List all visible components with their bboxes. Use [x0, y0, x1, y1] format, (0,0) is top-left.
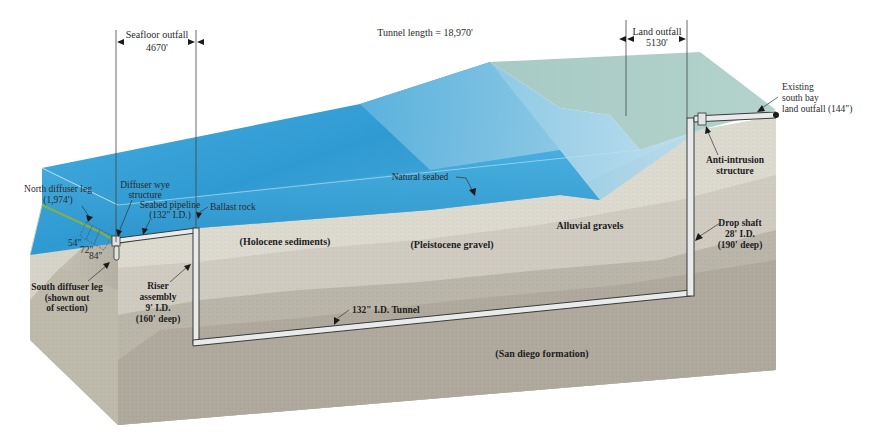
outfall-tunnel-diagram: Seafloor outfall 4670' Tunnel length = 1…	[0, 0, 889, 444]
stratum-holocene: (Holocene sediments)	[240, 236, 331, 248]
svg-text:assembly: assembly	[140, 292, 177, 302]
svg-text:structure: structure	[128, 190, 161, 200]
svg-text:28' I.D.: 28' I.D.	[725, 229, 755, 239]
svg-text:132" I.D. Tunnel: 132" I.D. Tunnel	[352, 305, 420, 315]
stratum-san-diego: (San diego formation)	[495, 348, 588, 360]
svg-text:84": 84"	[89, 251, 103, 261]
svg-text:(1,974'): (1,974')	[43, 195, 72, 206]
svg-text:(132" I.D.): (132" I.D.)	[149, 210, 191, 221]
svg-text:Natural seabed: Natural seabed	[392, 172, 449, 182]
svg-text:Diffuser wye: Diffuser wye	[120, 180, 170, 190]
svg-text:(160' deep): (160' deep)	[136, 314, 181, 325]
seafloor-outfall-value: 4670'	[146, 42, 168, 53]
seafloor-outfall-label: Seafloor outfall	[126, 29, 189, 40]
svg-text:9' I.D.: 9' I.D.	[145, 303, 170, 313]
svg-text:Riser: Riser	[147, 281, 169, 291]
svg-text:south bay: south bay	[782, 93, 819, 103]
svg-text:Seabed pipeline: Seabed pipeline	[140, 200, 200, 210]
svg-text:North diffuser leg: North diffuser leg	[24, 184, 92, 194]
svg-text:Anti-intrusion: Anti-intrusion	[706, 155, 765, 165]
svg-text:Existing: Existing	[782, 82, 814, 92]
stratum-alluvial: Alluvial gravels	[557, 220, 624, 231]
tunnel-length-label: Tunnel length = 18,970'	[377, 27, 473, 38]
svg-text:South diffuser leg: South diffuser leg	[31, 282, 103, 292]
svg-text:structure: structure	[716, 166, 753, 176]
svg-text:land outfall (144"): land outfall (144")	[782, 104, 852, 115]
svg-text:(190' deep): (190' deep)	[718, 240, 763, 251]
svg-text:Ballast rock: Ballast rock	[210, 202, 256, 212]
svg-text:Drop shaft: Drop shaft	[718, 218, 762, 228]
land-outfall-label: Land outfall	[632, 26, 681, 37]
stratum-pleistocene: (Pleistocene gravel)	[410, 239, 493, 251]
svg-text:of section): of section)	[46, 303, 87, 314]
land-outfall-value: 5130'	[646, 37, 668, 48]
